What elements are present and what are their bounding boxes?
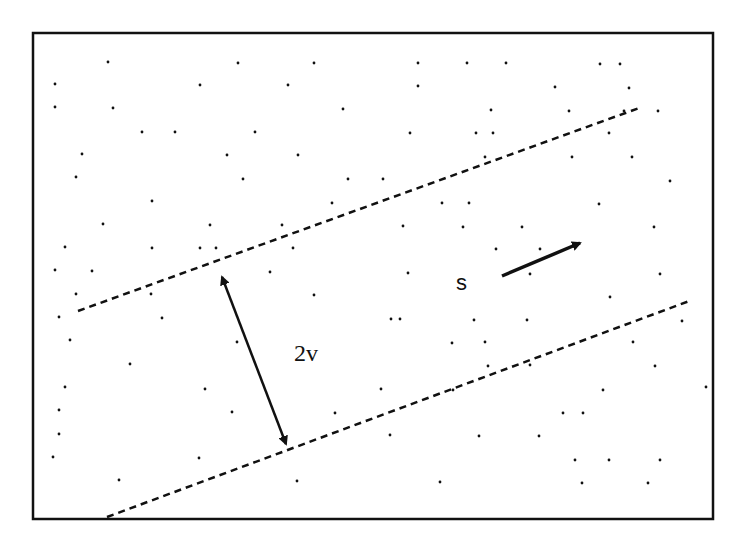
data-point [54, 83, 57, 86]
data-point [58, 433, 61, 436]
data-point [75, 293, 78, 296]
direction-s-arrow-icon [502, 243, 580, 276]
data-point [75, 176, 78, 179]
data-point [609, 296, 612, 299]
data-point [347, 178, 350, 181]
data-point [58, 409, 61, 412]
data-point [269, 271, 272, 274]
data-point [529, 273, 532, 276]
data-point [141, 131, 144, 134]
data-point [380, 388, 383, 391]
data-point [462, 226, 465, 229]
data-point [52, 456, 55, 459]
data-point [150, 293, 153, 296]
data-point [112, 107, 115, 110]
data-point [495, 248, 498, 251]
data-point [226, 154, 229, 157]
data-point [653, 226, 656, 229]
data-point [334, 412, 337, 415]
data-point [492, 132, 495, 135]
data-point [151, 200, 154, 203]
data-point [342, 108, 345, 111]
data-point [608, 132, 611, 135]
data-point [562, 412, 565, 415]
diagram-canvas [0, 0, 741, 552]
data-point [521, 226, 524, 229]
data-point [647, 482, 650, 485]
data-point [468, 202, 471, 205]
data-point [598, 203, 601, 206]
data-point [118, 479, 121, 482]
data-point [129, 363, 132, 366]
data-point [58, 316, 61, 319]
data-point [441, 202, 444, 205]
data-point [705, 386, 708, 389]
data-point [539, 248, 542, 251]
data-point [64, 386, 67, 389]
data-point [466, 62, 469, 65]
data-point [399, 318, 402, 321]
data-point [554, 86, 557, 89]
data-point [490, 109, 493, 112]
data-point [582, 412, 585, 415]
data-point [417, 62, 420, 65]
data-point [236, 341, 239, 344]
data-point [242, 178, 245, 181]
diagram-frame [33, 33, 713, 519]
data-point [54, 106, 57, 109]
data-point [161, 317, 164, 320]
data-point [628, 87, 631, 90]
data-point [81, 153, 84, 156]
data-point [237, 62, 240, 65]
label-s: s [456, 270, 467, 296]
data-point [254, 131, 257, 134]
data-point [669, 180, 672, 183]
data-point [602, 389, 605, 392]
data-point [619, 63, 622, 66]
data-point [631, 156, 634, 159]
data-point [529, 364, 532, 367]
data-point [91, 270, 94, 273]
data-point [538, 435, 541, 438]
data-point [54, 269, 57, 272]
data-point [199, 247, 202, 250]
data-point [568, 110, 571, 113]
data-point [659, 459, 662, 462]
data-point [297, 154, 300, 157]
data-point [209, 224, 212, 227]
data-point [473, 319, 476, 322]
data-point [382, 178, 385, 181]
margin-width-double-arrow [222, 277, 286, 444]
data-point [654, 365, 657, 368]
data-point [174, 131, 177, 134]
data-point [64, 246, 67, 249]
data-point [287, 84, 290, 87]
data-point [571, 156, 574, 159]
data-point [389, 434, 392, 437]
data-point [526, 319, 529, 322]
data-point [107, 61, 110, 64]
data-point [484, 341, 487, 344]
data-point [451, 342, 454, 345]
data-point [331, 202, 334, 205]
data-point [581, 482, 584, 485]
data-point [574, 459, 577, 462]
data-point [475, 132, 478, 135]
data-point [198, 457, 201, 460]
data-point [439, 481, 442, 484]
data-point [199, 84, 202, 87]
data-point [292, 247, 295, 250]
data-point [151, 247, 154, 250]
data-point [281, 224, 284, 227]
lower-margin-boundary-line [107, 300, 692, 517]
data-point [390, 318, 393, 321]
data-point [417, 85, 420, 88]
data-point [407, 272, 410, 275]
data-point [231, 411, 234, 414]
data-point [102, 223, 105, 226]
data-points [52, 61, 708, 485]
data-point [215, 247, 218, 250]
upper-margin-boundary-line [78, 107, 642, 311]
data-point [409, 132, 412, 135]
data-point [313, 62, 316, 65]
